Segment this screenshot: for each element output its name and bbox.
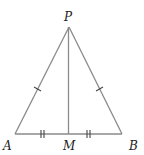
segment-PA [15,27,69,134]
isosceles-triangle-diagram: P A M B [0,0,144,155]
label-M: M [62,139,76,153]
label-P: P [63,10,73,24]
segment-PB [69,27,122,134]
label-B: B [128,139,138,153]
label-A: A [2,139,12,153]
